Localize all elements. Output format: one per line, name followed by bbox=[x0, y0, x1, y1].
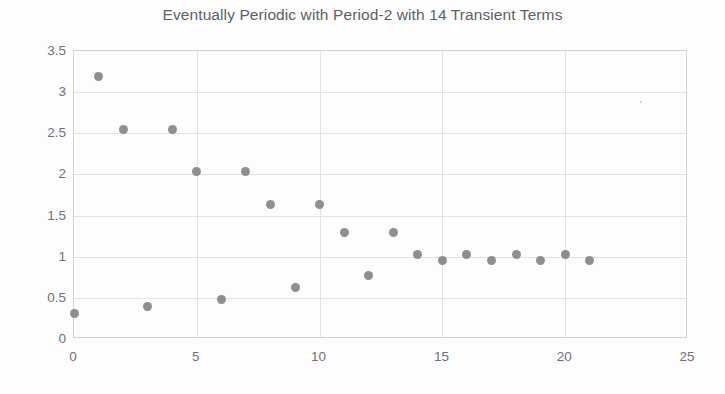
gridline-horizontal bbox=[74, 298, 686, 299]
x-tick-label: 10 bbox=[289, 349, 349, 364]
data-point bbox=[143, 302, 152, 311]
y-tick-label: 2 bbox=[6, 166, 66, 181]
chart-title: Eventually Periodic with Period-2 with 1… bbox=[0, 6, 725, 24]
data-point bbox=[168, 125, 177, 134]
x-tick-label: 25 bbox=[657, 349, 717, 364]
y-tick-label: 1.5 bbox=[6, 207, 66, 222]
y-tick-label: 0.5 bbox=[6, 289, 66, 304]
y-tick-label: 2.5 bbox=[6, 125, 66, 140]
gridline-vertical bbox=[197, 51, 198, 337]
data-point bbox=[561, 250, 570, 259]
gridline-horizontal bbox=[74, 133, 686, 134]
data-point bbox=[291, 283, 300, 292]
y-tick-label: 3 bbox=[6, 84, 66, 99]
gridline-horizontal bbox=[74, 216, 686, 217]
data-point bbox=[389, 228, 398, 237]
y-tick-label: 3.5 bbox=[6, 43, 66, 58]
data-point bbox=[70, 309, 79, 318]
data-point bbox=[512, 250, 521, 259]
gridline-horizontal bbox=[74, 257, 686, 258]
data-point bbox=[340, 228, 349, 237]
gridline-vertical bbox=[320, 51, 321, 337]
data-point bbox=[217, 295, 226, 304]
y-axis-tick-labels: 00.511.522.533.5 bbox=[0, 50, 66, 338]
chart-figure: Eventually Periodic with Period-2 with 1… bbox=[0, 0, 725, 394]
data-point bbox=[364, 271, 373, 280]
gridline-vertical bbox=[565, 51, 566, 337]
data-point bbox=[94, 72, 103, 81]
gridline-horizontal bbox=[74, 92, 686, 93]
gridline-horizontal bbox=[74, 174, 686, 175]
x-tick-label: 5 bbox=[166, 349, 226, 364]
data-point bbox=[536, 256, 545, 265]
gridline-vertical bbox=[442, 51, 443, 337]
scan-speck bbox=[640, 101, 642, 103]
y-tick-label: 1 bbox=[6, 248, 66, 263]
y-tick-label: 0 bbox=[6, 331, 66, 346]
x-tick-label: 15 bbox=[411, 349, 471, 364]
data-point bbox=[266, 200, 275, 209]
plot-area bbox=[73, 50, 687, 338]
x-tick-label: 0 bbox=[43, 349, 103, 364]
data-point bbox=[119, 125, 128, 134]
data-point bbox=[315, 200, 324, 209]
data-point bbox=[585, 256, 594, 265]
data-point bbox=[438, 256, 447, 265]
data-point bbox=[487, 256, 496, 265]
x-tick-label: 20 bbox=[534, 349, 594, 364]
x-axis-tick-labels: 0510152025 bbox=[73, 349, 687, 369]
